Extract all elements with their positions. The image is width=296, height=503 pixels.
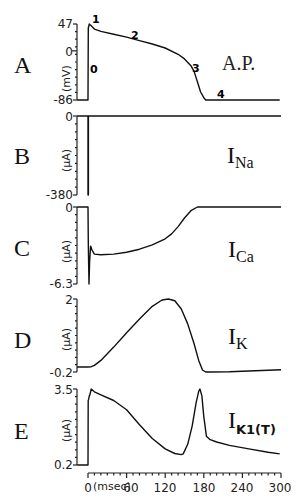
y-axis [73,116,77,195]
y-tick-bottom: -86 [53,93,73,107]
y-axis [73,389,77,465]
y-tick-top: 0 [65,110,73,124]
phase-label-2: 2 [131,29,139,42]
y-unit-label: (µA) [60,149,73,172]
panel-e: E 3.5 0.2 (µA) IK1(T) [14,383,280,472]
panel-title-ina: INa [227,142,254,171]
panel-letter-a: A [14,52,32,78]
panel-d: D 2 -0.2 (µA) IK [14,293,281,380]
panel-title-ap: A.P. [222,52,255,74]
panel-title-ik1: IK1(T) [228,407,276,437]
ica-trace [77,207,281,284]
panel-letter-b: B [14,143,30,169]
y-tick-top: 3.5 [54,383,73,397]
x-tick-120: 120 [154,481,177,495]
panel-letter-e: E [14,418,29,444]
ik-trace [77,299,281,372]
x-axis [88,473,281,478]
y-tick-top: 2 [65,293,73,307]
y-tick-bottom: -0.2 [50,366,73,380]
y-axis [73,207,77,284]
panel-b: B 0 -380 (µA) INa [14,110,281,202]
figure-canvas: A 47 0 -86 (mV) 0 1 2 3 4 A.P. B 0 -380 … [0,0,296,503]
y-tick-top: 0 [65,201,73,215]
x-tick-60: 60 [123,481,138,495]
panel-letter-d: D [14,327,31,353]
y-unit-label: (µA) [60,240,73,263]
x-tick-0: 0 [84,481,92,495]
panel-a: A 47 0 -86 (mV) 0 1 2 3 4 A.P. [14,13,280,107]
panel-letter-c: C [14,235,30,261]
x-tick-300: 300 [269,481,292,495]
phase-label-0: 0 [90,63,98,76]
phase-label-3: 3 [192,62,200,75]
y-axis [73,299,77,372]
y-unit-label: (mV) [60,65,73,92]
y-unit-label: (µA) [60,328,73,351]
y-tick-zero: 0 [65,45,73,59]
panel-title-ica: ICa [228,236,254,265]
y-tick-bottom: -380 [46,188,73,202]
y-tick-bottom: -6.3 [50,277,73,291]
panel-c: C 0 -6.3 (µA) ICa [14,201,281,291]
y-tick-top: 47 [58,17,73,31]
y-tick-bottom: 0.2 [54,458,73,472]
phase-label-4: 4 [217,88,225,101]
x-tick-180: 180 [193,481,216,495]
y-unit-label: (µA) [60,419,73,442]
x-tick-labels: 0 (msec) 60 120 180 240 300 [84,480,291,495]
x-tick-240: 240 [231,481,254,495]
phase-label-1: 1 [92,13,100,26]
panel-title-ik: IK [228,323,248,352]
